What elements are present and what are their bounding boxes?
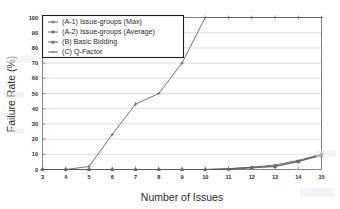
x-tick-label: 13 xyxy=(272,174,278,180)
x-tick-label: 10 xyxy=(202,174,208,180)
y-tick-label: 50 xyxy=(32,91,38,97)
x-tick-label: 6 xyxy=(111,174,114,180)
x-tick-label: 11 xyxy=(226,174,232,180)
legend-item-label: (A-1) Issue-groups (Max) xyxy=(62,17,142,26)
x-tick-label: 15 xyxy=(318,174,324,180)
y-tick-label: 60 xyxy=(32,75,38,81)
legend: (A-1) Issue-groups (Max)(A-2) Issue-grou… xyxy=(43,16,184,58)
legend-item-2: (A-2) Issue-groups (Average) xyxy=(48,27,155,36)
x-tick-label: 7 xyxy=(134,174,137,180)
y-tick-label: 100 xyxy=(29,15,38,21)
x-tick-labels: 3456789101112131415 xyxy=(41,174,325,180)
series-3 xyxy=(41,154,324,171)
legend-item-label: (B) Basic Bidding xyxy=(62,37,117,46)
legend-item-label: (A-2) Issue-groups (Average) xyxy=(62,27,155,36)
legend-item-label: (C) Q-Factor xyxy=(62,47,103,56)
y-tick-label: 20 xyxy=(32,136,38,142)
x-tick-label: 12 xyxy=(249,174,255,180)
x-tick-label: 9 xyxy=(180,174,183,180)
x-tick-label: 5 xyxy=(87,174,90,180)
x-tick-label: 4 xyxy=(64,174,68,180)
y-tick-label: 90 xyxy=(32,30,38,36)
y-tick-label: 10 xyxy=(32,151,38,157)
y-axis-title: Failure Rate (%) xyxy=(5,56,17,132)
y-tick-label: 70 xyxy=(32,60,38,66)
figure-canvas: 0102030405060708090100 34567891011121314… xyxy=(0,0,340,209)
y-tick-label: 0 xyxy=(35,167,38,173)
legend-item-1: (A-1) Issue-groups (Max) xyxy=(48,17,142,26)
x-axis-title: Number of Issues xyxy=(141,191,223,203)
x-tick-label: 8 xyxy=(157,174,160,180)
y-tick-label: 30 xyxy=(32,121,38,127)
line-chart: 0102030405060708090100 34567891011121314… xyxy=(0,0,340,209)
y-tick-label: 80 xyxy=(32,45,38,51)
x-tick-label: 14 xyxy=(295,174,302,180)
y-tick-label: 40 xyxy=(32,106,38,112)
x-tick-label: 3 xyxy=(41,174,44,180)
y-tick-labels: 0102030405060708090100 xyxy=(29,15,38,173)
